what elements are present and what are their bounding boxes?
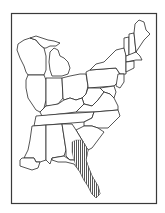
- state-illinois: [26, 75, 46, 112]
- state-pennsylvania: [86, 68, 120, 88]
- state-maine: [134, 20, 150, 52]
- eastern-us-map: [0, 0, 165, 213]
- state-michigan-lp: [49, 48, 70, 76]
- state-indiana: [46, 78, 63, 106]
- state-mississippi: [24, 125, 46, 162]
- state-connecticut: [126, 61, 134, 72]
- range-area-hatched: [72, 140, 100, 198]
- range-map: [0, 0, 165, 213]
